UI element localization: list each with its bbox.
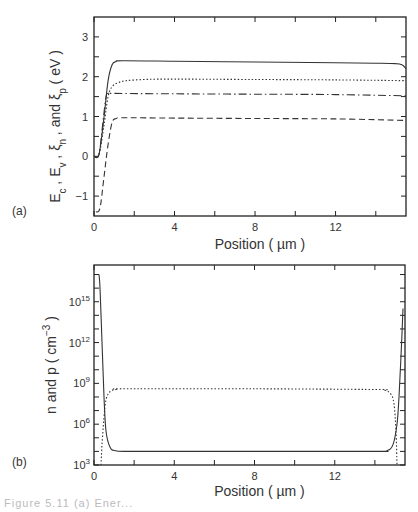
panel-b-x-axis-title: Position ( µm )	[214, 483, 305, 499]
curve-ev	[96, 118, 406, 212]
curve-n	[99, 275, 403, 452]
x-tick-label: 4	[171, 470, 177, 482]
x-tick-label: 8	[252, 221, 258, 233]
panel-b-frame	[94, 265, 405, 465]
panel-b-carrier-density: 04812 10310610910121015 Position ( µm ) …	[12, 265, 405, 499]
panel-a-curves	[94, 61, 406, 212]
y-tick-label: 103	[73, 457, 90, 471]
panel-a-frame	[94, 17, 406, 216]
panel-b-y-axis-title: n and p ( cm−3 )	[41, 316, 59, 414]
curve-ec	[94, 61, 406, 158]
y-tick-label: −1	[75, 190, 88, 202]
y-tick-label: 0	[82, 150, 88, 162]
y-tick-label: 3	[82, 31, 88, 43]
curve-p	[101, 389, 397, 465]
x-tick-label: 12	[329, 221, 341, 233]
panel-a-label: (a)	[12, 204, 27, 218]
panel-a-ticks	[94, 17, 406, 216]
x-tick-label: 8	[251, 470, 257, 482]
panel-a-energy-bands: 04812 −10123 Position ( µm ) Ec , Ev , ξ…	[12, 17, 406, 252]
panel-a-y-axis-title: Ec , Ev , ξn , and ξp ( eV )	[47, 50, 68, 203]
panel-a-x-tick-labels: 04812	[91, 221, 342, 233]
y-tick-label: 1015	[69, 294, 91, 308]
panel-b-y-tick-labels: 10310610910121015	[69, 294, 91, 471]
x-tick-label: 0	[91, 470, 97, 482]
y-tick-label: 1	[82, 111, 88, 123]
x-tick-label: 4	[171, 221, 177, 233]
panel-a-x-axis-title: Position ( µm )	[215, 236, 306, 252]
panel-a-y-tick-labels: −10123	[75, 31, 88, 202]
curve-p	[94, 93, 406, 157]
panel-b-ticks	[94, 265, 405, 465]
figure-caption: Figure 5.11 (a) Ener...	[4, 497, 133, 509]
x-tick-label: 12	[329, 470, 341, 482]
panel-b-label: (b)	[12, 455, 27, 469]
panel-b-x-tick-labels: 04812	[91, 470, 341, 482]
y-tick-label: 2	[82, 71, 88, 83]
y-tick-label: 106	[73, 416, 90, 430]
x-tick-label: 0	[91, 221, 97, 233]
y-tick-label: 109	[73, 375, 90, 389]
panel-b-curves	[99, 275, 403, 466]
y-tick-label: 1012	[69, 335, 91, 349]
